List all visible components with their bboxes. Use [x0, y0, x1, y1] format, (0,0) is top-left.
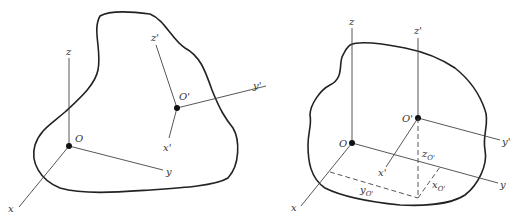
left-prime-origin-label: O' [179, 91, 190, 102]
right-x-label: x [291, 202, 297, 213]
left-prime-origin-point [174, 105, 180, 111]
right-y-prime-label: y' [501, 136, 510, 147]
left-y-label: y [165, 166, 172, 177]
left-figure: O z y x O' z' y' x' [8, 12, 266, 214]
left-origin-label: O [75, 133, 83, 144]
diagram-canvas: O z y x O' z' y' x' O z y x O' z' y' x' [0, 0, 522, 218]
left-y-prime-label: y' [252, 80, 261, 91]
left-x-label: x [8, 203, 14, 214]
left-x-prime-axis [169, 108, 177, 138]
right-origin-label: O [339, 138, 347, 149]
right-z-offset-label: zO' [421, 148, 435, 162]
right-rigid-body-outline [308, 43, 487, 206]
left-z-label: z [65, 46, 72, 57]
left-rigid-body-outline [34, 12, 238, 192]
left-z-prime-axis [156, 45, 177, 108]
right-x-offset-label: xO' [432, 179, 445, 193]
right-z-prime-label: z' [413, 25, 422, 36]
right-x-prime-label: x' [378, 167, 386, 178]
left-x-prime-label: x' [163, 142, 171, 153]
right-prime-origin-label: O' [402, 113, 413, 124]
left-z-prime-label: z' [150, 32, 159, 43]
right-z-label: z [348, 16, 355, 27]
left-x-axis [19, 146, 69, 207]
right-y-label: y [499, 179, 506, 190]
right-y-offset-dashed-line [330, 172, 418, 198]
right-origin-point [349, 140, 355, 146]
left-origin-point [66, 143, 72, 149]
right-figure: O z y x O' z' y' x' zO' yO' xO' [291, 16, 510, 213]
left-y-axis [69, 146, 163, 170]
right-y-offset-label: yO' [359, 184, 373, 198]
right-y-prime-axis [418, 118, 500, 140]
